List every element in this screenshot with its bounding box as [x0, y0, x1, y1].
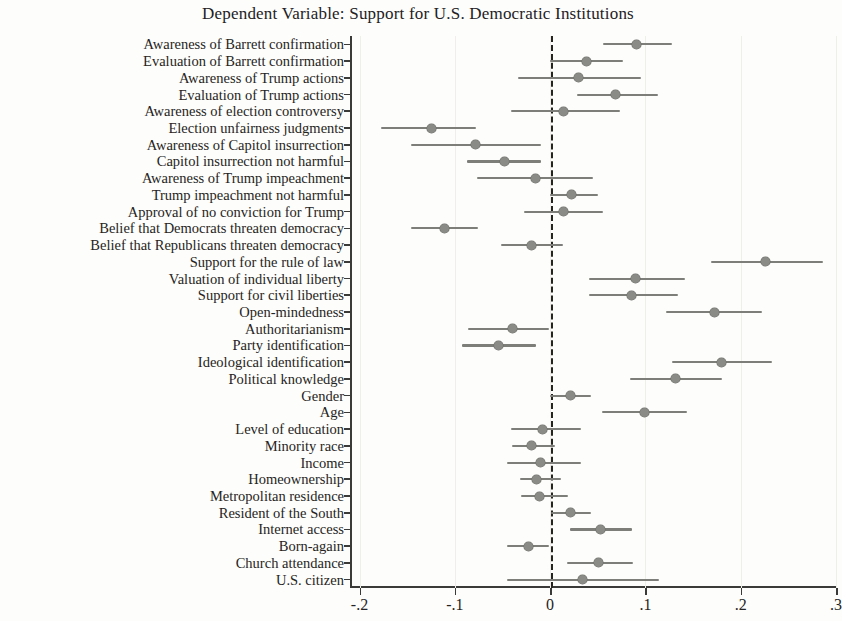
coefficient-row — [350, 286, 836, 304]
grid-line — [836, 36, 837, 588]
y-axis-tick — [344, 144, 350, 146]
coefficient-row — [350, 203, 836, 221]
y-axis-tick — [344, 110, 350, 112]
y-axis-label: Ideological identification — [198, 353, 344, 371]
y-axis-label: Awareness of Barrett confirmation — [144, 35, 344, 53]
point-estimate-marker — [578, 575, 587, 584]
x-axis-tick — [550, 588, 552, 595]
y-axis-tick — [344, 395, 350, 397]
y-axis-label: Election unfairness judgments — [168, 119, 344, 137]
coefficient-row — [350, 86, 836, 104]
point-estimate-marker — [532, 475, 541, 484]
x-axis-tick-label: .2 — [735, 596, 747, 614]
coefficient-row — [350, 504, 836, 522]
coefficient-row — [350, 69, 836, 87]
coefficient-row — [350, 336, 836, 354]
y-axis-tick — [344, 294, 350, 296]
y-axis-label: Minority race — [265, 437, 344, 455]
point-estimate-marker — [611, 90, 620, 99]
x-axis-tick-label: -.2 — [351, 596, 368, 614]
point-estimate-marker — [440, 224, 449, 233]
y-axis-label: U.S. citizen — [276, 571, 344, 589]
coefficient-row — [350, 236, 836, 254]
coefficient-row — [350, 52, 836, 70]
y-axis-label: Age — [320, 403, 344, 421]
y-axis-tick — [344, 345, 350, 347]
plot-area: -.2-.10.1.2.3 — [350, 36, 836, 588]
y-axis-label: Support for the rule of law — [190, 253, 344, 271]
x-axis-tick — [741, 588, 743, 595]
x-axis-tick-label: .1 — [639, 596, 651, 614]
coefficient-row — [350, 270, 836, 288]
y-axis-label: Political knowledge — [228, 370, 344, 388]
coefficient-row — [350, 186, 836, 204]
y-axis-label: Evaluation of Trump actions — [178, 86, 344, 104]
y-axis-tick — [344, 361, 350, 363]
y-axis-tick — [344, 244, 350, 246]
y-axis-tick — [344, 428, 350, 430]
point-estimate-marker — [508, 324, 517, 333]
y-axis-tick — [344, 161, 350, 163]
x-axis-tick — [455, 588, 457, 595]
coefficient-row — [350, 320, 836, 338]
y-axis-tick — [344, 412, 350, 414]
point-estimate-marker — [559, 207, 568, 216]
point-estimate-marker — [574, 73, 583, 82]
y-axis-tick — [344, 60, 350, 62]
y-axis-tick — [344, 328, 350, 330]
point-estimate-marker — [567, 190, 576, 199]
y-axis-label: Belief that Republicans threaten democra… — [90, 236, 344, 254]
y-axis-tick — [344, 478, 350, 480]
y-axis-label: Evaluation of Barrett confirmation — [143, 52, 344, 70]
point-estimate-marker — [559, 107, 568, 116]
y-axis-tick — [344, 211, 350, 213]
x-axis-tick — [360, 588, 362, 595]
x-axis-tick-label: 0 — [546, 596, 554, 614]
y-axis-label: Resident of the South — [219, 504, 344, 522]
coefficient-row — [350, 102, 836, 120]
y-axis-label: Support for civil liberties — [198, 286, 344, 304]
y-axis-label: Awareness of Trump impeachment — [142, 169, 344, 187]
y-axis-tick — [344, 495, 350, 497]
point-estimate-marker — [427, 124, 436, 133]
point-estimate-marker — [717, 358, 726, 367]
coefficient-row — [350, 136, 836, 154]
y-axis-label: Valuation of individual liberty — [169, 270, 344, 288]
coefficient-row — [350, 152, 836, 170]
point-estimate-marker — [531, 174, 540, 183]
point-estimate-marker — [631, 274, 640, 283]
y-axis-label: Open-mindedness — [239, 303, 344, 321]
y-axis-tick — [344, 545, 350, 547]
point-estimate-marker — [761, 257, 770, 266]
confidence-interval-bar — [521, 495, 569, 497]
y-axis-tick — [344, 127, 350, 129]
y-axis-label: Awareness of Trump actions — [179, 69, 344, 87]
point-estimate-marker — [566, 508, 575, 517]
point-estimate-marker — [500, 157, 509, 166]
y-axis-label: Level of education — [235, 420, 344, 438]
point-estimate-marker — [494, 341, 503, 350]
y-axis-label: Awareness of Capitol insurrection — [147, 136, 344, 154]
point-estimate-marker — [627, 291, 636, 300]
y-axis-tick — [344, 562, 350, 564]
y-axis-label: Capitol insurrection not harmful — [157, 152, 344, 170]
y-axis-label: Metropolitan residence — [210, 487, 344, 505]
point-estimate-marker — [671, 374, 680, 383]
y-axis-label: Income — [301, 454, 344, 472]
y-axis-label: Homeownership — [248, 470, 344, 488]
coefficient-row — [350, 253, 836, 271]
point-estimate-marker — [527, 441, 536, 450]
y-axis-tick — [344, 278, 350, 280]
coefficient-row — [350, 303, 836, 321]
coefficient-row — [350, 470, 836, 488]
y-axis-label: Trump impeachment not harmful — [152, 186, 344, 204]
y-axis-tick — [344, 445, 350, 447]
y-axis-tick — [344, 462, 350, 464]
point-estimate-marker — [710, 308, 719, 317]
y-axis-tick — [344, 228, 350, 230]
y-axis-tick — [344, 44, 350, 46]
coefficient-row — [350, 487, 836, 505]
coefficient-row — [350, 35, 836, 53]
y-axis-tick — [344, 311, 350, 313]
page-title: Dependent Variable: Support for U.S. Dem… — [0, 4, 836, 24]
